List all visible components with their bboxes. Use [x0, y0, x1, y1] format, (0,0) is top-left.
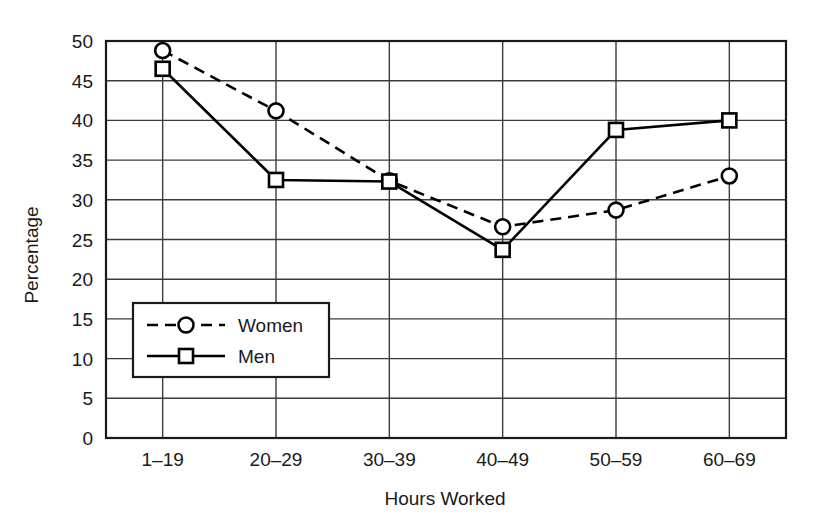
y-tick-label: 5	[82, 388, 93, 409]
data-point-marker-square	[722, 113, 736, 127]
y-tick-label: 0	[82, 428, 93, 449]
x-tick-label: 30–39	[363, 449, 416, 470]
legend-label: Women	[238, 315, 303, 336]
y-tick-label: 30	[72, 190, 93, 211]
y-axis-tick-labels: 05101520253035404550	[72, 31, 93, 449]
series-men	[156, 62, 737, 257]
series-women	[155, 43, 737, 234]
legend-label: Men	[238, 346, 275, 367]
chart-legend: WomenMen	[133, 303, 329, 377]
legend-marker-square	[179, 349, 193, 363]
data-point-marker-square	[496, 243, 510, 257]
y-tick-label: 40	[72, 110, 93, 131]
x-tick-label: 1–19	[142, 449, 184, 470]
y-tick-label: 25	[72, 230, 93, 251]
x-tick-label: 60–69	[703, 449, 756, 470]
x-tick-label: 20–29	[250, 449, 303, 470]
x-axis-title: Hours Worked	[384, 488, 505, 509]
x-axis-tick-labels: 1–1920–2930–3940–4950–5960–69	[142, 449, 756, 470]
x-tick-label: 50–59	[590, 449, 643, 470]
y-tick-label: 50	[72, 31, 93, 52]
y-tick-label: 15	[72, 309, 93, 330]
data-point-marker-square	[156, 62, 170, 76]
line-chart: 05101520253035404550 1–1920–2930–3940–49…	[0, 0, 826, 522]
data-point-marker-square	[269, 173, 283, 187]
legend-marker-circle	[179, 318, 194, 333]
data-point-marker-circle	[269, 103, 284, 118]
y-axis-title: Percentage	[21, 206, 42, 303]
chart-container: 05101520253035404550 1–1920–2930–3940–49…	[0, 0, 826, 522]
data-series-layer	[155, 43, 737, 257]
data-point-marker-circle	[155, 43, 170, 58]
data-point-marker-circle	[722, 168, 737, 183]
data-point-marker-circle	[495, 219, 510, 234]
data-point-marker-circle	[609, 203, 624, 218]
data-point-marker-square	[382, 175, 396, 189]
y-tick-label: 35	[72, 150, 93, 171]
y-tick-label: 10	[72, 349, 93, 370]
y-tick-label: 20	[72, 269, 93, 290]
y-tick-label: 45	[72, 71, 93, 92]
grid-lines	[106, 41, 786, 438]
x-tick-label: 40–49	[476, 449, 529, 470]
data-point-marker-square	[609, 123, 623, 137]
